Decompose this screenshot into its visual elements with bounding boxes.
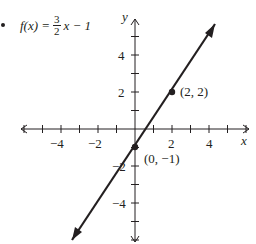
coordinate-plane [0, 0, 256, 244]
x-tick-label: −4 [50, 137, 64, 150]
x-tick-label: 2 [168, 137, 175, 150]
x-tick-label: −2 [88, 137, 102, 150]
point-label-2-2: (2, 2) [180, 85, 208, 98]
y-tick-label: 2 [118, 86, 125, 99]
point-2-2 [169, 89, 175, 95]
y-tick-label: 4 [118, 49, 125, 62]
point-0-neg1 [132, 144, 138, 150]
y-tick-label: −2 [112, 160, 126, 173]
x-axis-label: x [241, 134, 247, 147]
y-axis-label: y [122, 10, 128, 23]
point-label-0-neg1: (0, −1) [144, 152, 180, 165]
x-tick-label: 4 [206, 137, 213, 150]
function-line [72, 24, 215, 240]
y-tick-label: −4 [112, 197, 126, 210]
